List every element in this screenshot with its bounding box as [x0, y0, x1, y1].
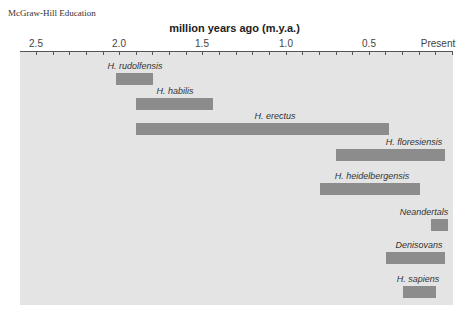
bar-neandertals [431, 219, 448, 231]
tick-mark [286, 51, 287, 55]
tick-mark [336, 51, 337, 55]
tick-mark [86, 51, 87, 55]
tick-mark [385, 51, 386, 55]
tick-mark [169, 51, 170, 55]
bar-floresiensis [336, 149, 445, 161]
tick-mark [435, 51, 436, 55]
tick-mark [69, 51, 70, 55]
tick-mark [152, 51, 153, 55]
bar-habilis [136, 98, 213, 110]
bar-label-habilis: H. habilis [156, 86, 193, 96]
tick-label: 1.0 [279, 38, 293, 49]
tick-label: 2.0 [112, 38, 126, 49]
tick-mark [452, 51, 453, 55]
bar-heidelbergensis [320, 183, 420, 195]
tick-mark [269, 51, 270, 55]
tick-mark [53, 51, 54, 55]
bar-erectus [136, 123, 389, 135]
axis-title: million years ago (m.y.a.) [0, 22, 469, 34]
tick-mark [236, 51, 237, 55]
bar-label-neandertals: Neandertals [400, 207, 449, 217]
bar-denisovans [386, 252, 445, 264]
tick-label: 1.5 [195, 38, 209, 49]
bar-label-denisovans: Denisovans [395, 240, 442, 250]
tick-mark [202, 51, 203, 55]
bar-label-rudolfensis: H. rudolfensis [107, 61, 162, 71]
bar-sapiens [403, 286, 436, 298]
tick-mark [219, 51, 220, 55]
tick-mark [186, 51, 187, 55]
tick-mark [252, 51, 253, 55]
tick-mark [302, 51, 303, 55]
tick-mark [136, 51, 137, 55]
bar-label-floresiensis: H. floresiensis [386, 137, 443, 147]
tick-label: 0.5 [362, 38, 376, 49]
bar-label-heidelbergensis: H. heidelbergensis [335, 171, 410, 181]
bar-label-sapiens: H. sapiens [397, 274, 440, 284]
tick-mark [369, 51, 370, 55]
tick-mark [36, 51, 37, 55]
tick-mark [352, 51, 353, 55]
publisher-credit: McGraw-Hill Education [8, 8, 96, 18]
bar-label-erectus: H. erectus [254, 111, 295, 121]
tick-label: 2.5 [29, 38, 43, 49]
bar-rudolfensis [116, 73, 153, 85]
tick-mark [419, 51, 420, 55]
tick-mark [119, 51, 120, 55]
tick-label: Present [421, 38, 455, 49]
tick-mark [319, 51, 320, 55]
tick-mark [402, 51, 403, 55]
tick-mark [103, 51, 104, 55]
